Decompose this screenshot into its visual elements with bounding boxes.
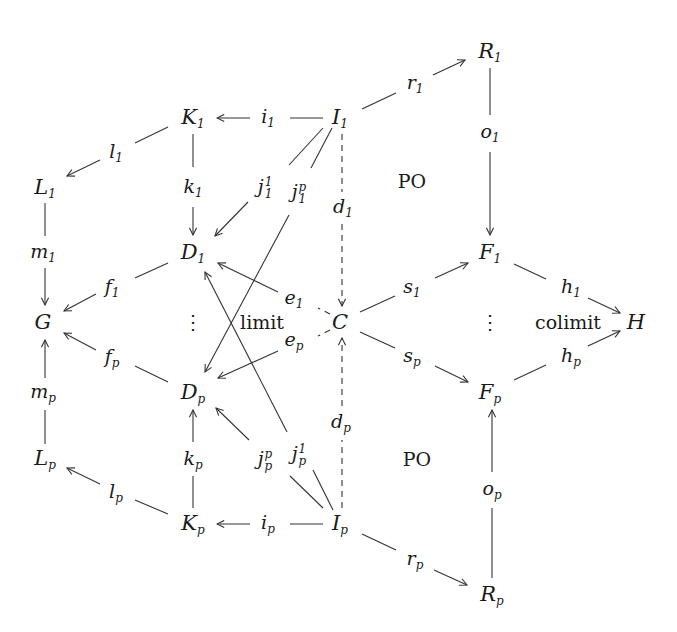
edge-fp-b	[64, 333, 96, 350]
edge-s1-b	[435, 263, 468, 278]
edge-l1-b	[67, 160, 100, 176]
edge-j11-a	[289, 128, 323, 165]
label-hp: hp	[561, 346, 581, 368]
annotation-limit: limit	[240, 313, 284, 332]
commutative-diagram: R1 K1 I1 L1 D1 F1 G C H Dp Fp Lp Kp Ip R…	[0, 0, 677, 632]
edge-sp-a	[360, 332, 395, 348]
edge-f1-a	[135, 263, 168, 278]
label-j11: j11	[258, 176, 273, 200]
edge-ep-a	[318, 330, 330, 336]
node-L1: L1	[34, 177, 56, 200]
node-H: H	[627, 312, 645, 333]
vdots-right: ⋮	[480, 318, 500, 326]
label-d1: d1	[333, 197, 353, 219]
annotation-colimit: colimit	[535, 313, 601, 332]
node-G: G	[35, 312, 52, 333]
edge-e1-b	[218, 263, 278, 292]
edge-rp-b	[434, 570, 467, 585]
edge-e1-a	[318, 308, 330, 314]
node-R1: R1	[478, 41, 501, 64]
label-kp: kp	[183, 449, 202, 471]
edge-h1-a	[514, 264, 546, 279]
label-sp: sp	[403, 346, 420, 368]
label-ep: ep	[285, 330, 304, 352]
edge-jpp-b	[216, 408, 249, 440]
annotation-pushout-bottom: PO	[403, 450, 431, 469]
label-fp: fp	[105, 347, 120, 369]
vdots-left: ⋮	[183, 318, 203, 326]
edge-jp1-a	[313, 470, 333, 510]
label-dp: dp	[331, 412, 351, 434]
label-e1: e1	[285, 288, 304, 310]
label-o1: o1	[480, 122, 499, 144]
label-r1: r1	[407, 73, 424, 95]
label-jp1: j1p	[292, 443, 307, 467]
label-mp: mp	[30, 382, 56, 404]
edge-r1-a	[362, 93, 396, 109]
edge-rp-a	[362, 534, 396, 550]
node-Rp: Rp	[480, 584, 504, 607]
label-rp: rp	[407, 549, 424, 571]
label-lp: lp	[109, 482, 123, 504]
label-j1p: jp1	[292, 181, 307, 205]
edge-j1p-a	[311, 128, 332, 168]
node-Kp: Kp	[181, 513, 204, 536]
node-Ip: Ip	[332, 513, 348, 536]
edge-s1-a	[360, 296, 395, 312]
node-Dp: Dp	[181, 382, 206, 405]
edge-j11-b	[215, 202, 248, 236]
edge-hp-a	[514, 365, 546, 380]
node-F1: F1	[479, 242, 501, 265]
label-s1: s1	[403, 277, 420, 299]
edge-fp-a	[135, 366, 168, 382]
label-ip: ip	[261, 513, 275, 535]
edge-j1p-b	[205, 215, 289, 372]
edge-hp-b	[588, 331, 620, 346]
node-Lp: Lp	[34, 448, 56, 471]
node-K1: K1	[181, 107, 204, 130]
label-i1: i1	[261, 107, 275, 129]
label-jpp: jpp	[258, 448, 273, 472]
edge-f1-b	[64, 294, 96, 311]
edge-lp-b	[67, 468, 100, 484]
label-f1: f1	[105, 277, 120, 299]
label-h1: h1	[561, 277, 581, 299]
label-m1: m1	[30, 242, 56, 264]
label-k1: k1	[183, 177, 202, 199]
node-C: C	[332, 312, 348, 333]
annotation-pushout-top: PO	[398, 172, 426, 191]
edge-r1-b	[433, 60, 465, 75]
edge-sp-b	[435, 366, 468, 382]
edge-l1-a	[135, 127, 168, 143]
label-op: op	[482, 479, 501, 501]
edge-lp-a	[135, 500, 168, 514]
node-I1: I1	[332, 107, 348, 130]
node-Fp: Fp	[479, 382, 501, 405]
node-D1: D1	[181, 242, 205, 265]
label-l1: l1	[109, 142, 123, 164]
